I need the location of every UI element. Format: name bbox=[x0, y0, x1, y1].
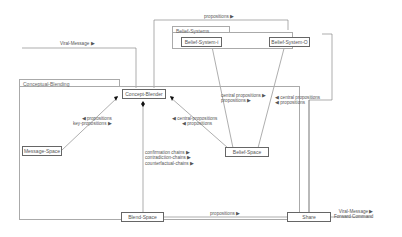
message-propositions-label: ◀ propositions key-propositions ▶ bbox=[73, 116, 112, 127]
share-output-line-2: Forward Command bbox=[334, 214, 373, 219]
viral-message-label: Viral-Message ▶ bbox=[60, 41, 95, 46]
message-propositions-line-2: key-propositions ▶ bbox=[73, 121, 112, 126]
belief-propositions-label: ◀ central-propositions ◀ propositions bbox=[172, 116, 217, 127]
share-node[interactable]: Share bbox=[287, 212, 331, 222]
concept-blender-node[interactable]: Concept-Blender bbox=[122, 89, 166, 99]
propositions-top-label: propositions ▶ bbox=[204, 14, 234, 19]
blend-space-node[interactable]: Blend-Space bbox=[121, 212, 164, 222]
conceptual-blending-title: Conceptual-Blending bbox=[19, 79, 120, 87]
blend-propositions-label: propositions ▶ bbox=[210, 211, 240, 216]
belief-space-node[interactable]: Belief-Space bbox=[225, 147, 269, 157]
chains-label: confirmation chains ▶ contradiction-chai… bbox=[145, 150, 194, 166]
share-output-label: Viral-Message ▶ Forward Command bbox=[334, 209, 373, 220]
belief-propositions-line-2: ◀ propositions bbox=[172, 121, 217, 126]
chains-line-2: contradiction-chains ▶ bbox=[145, 155, 194, 160]
belief-systems-title: Belief-Systems bbox=[172, 26, 230, 33]
belief-system-central-label: central propositions ▶ propositions ▶ bbox=[221, 93, 266, 104]
belief-system-o-node[interactable]: Belief-System-O bbox=[269, 37, 310, 47]
diagram-canvas: Conceptual-Blending Belief-Systems Conce… bbox=[0, 0, 402, 237]
belief-system-right-line-2: ◀ propositions bbox=[275, 100, 320, 105]
belief-system-i-node[interactable]: Belief-System-i bbox=[181, 37, 222, 47]
message-space-node[interactable]: Message-Space bbox=[22, 146, 62, 156]
chains-line-3: counterfactual-chains ▶ bbox=[145, 161, 194, 166]
belief-system-central-line-2: propositions ▶ bbox=[221, 98, 266, 103]
belief-system-right-label: ◀ central propositions ◀ propositions bbox=[275, 95, 320, 106]
